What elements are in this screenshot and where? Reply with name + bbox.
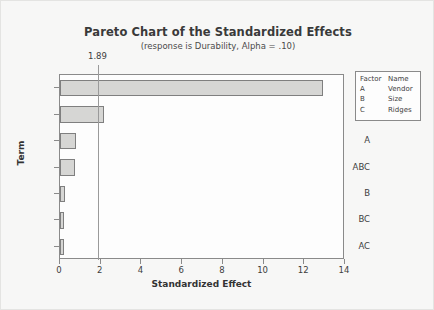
- bar-b: [60, 186, 65, 202]
- y-tick-label-ac: AC: [358, 241, 370, 251]
- x-tick-label-2: 2: [97, 265, 102, 275]
- legend-header-name: Name: [388, 75, 416, 85]
- legend-cell-name: Vendor: [388, 85, 416, 95]
- bar-ac: [60, 239, 64, 255]
- x-tick-label-8: 8: [219, 265, 224, 275]
- legend-cell-factor: A: [360, 85, 388, 95]
- legend-body: AVendorBSizeCRidges: [360, 85, 416, 116]
- legend-cell-factor: C: [360, 106, 388, 116]
- y-tick-label-abc: ABC: [353, 162, 370, 172]
- y-tick-mark: [54, 193, 59, 194]
- y-tick-mark: [54, 219, 59, 220]
- pareto-chart-figure: Pareto Chart of the Standardized Effects…: [0, 0, 434, 310]
- bar-bc: [60, 212, 64, 228]
- bar-a: [60, 133, 76, 149]
- reference-line-label: 1.89: [88, 51, 107, 61]
- x-tick-mark: [100, 259, 101, 264]
- x-tick-mark: [181, 259, 182, 264]
- legend-row: CRidges: [360, 106, 416, 116]
- legend-cell-name: Size: [388, 95, 416, 105]
- y-tick-label-bc: BC: [358, 214, 370, 224]
- y-tick-mark: [54, 167, 59, 168]
- legend-row: BSize: [360, 95, 416, 105]
- y-axis-title: Term: [16, 141, 26, 166]
- legend-table: Factor Name AVendorBSizeCRidges: [360, 75, 416, 116]
- bar-abc: [60, 159, 75, 175]
- x-tick-label-10: 10: [257, 265, 268, 275]
- x-tick-label-6: 6: [178, 265, 183, 275]
- legend-cell-name: Ridges: [388, 106, 416, 116]
- plot-area: [59, 74, 344, 259]
- x-tick-label-12: 12: [298, 265, 309, 275]
- factor-legend: Factor Name AVendorBSizeCRidges: [355, 71, 421, 121]
- x-tick-label-4: 4: [138, 265, 143, 275]
- y-tick-mark: [54, 246, 59, 247]
- y-tick-mark: [54, 114, 59, 115]
- x-tick-mark: [344, 259, 345, 264]
- chart-subtitle: (response is Durability, Alpha = .10): [1, 41, 434, 51]
- y-tick-label-a: A: [364, 135, 370, 145]
- y-tick-mark: [54, 87, 59, 88]
- chart-title: Pareto Chart of the Standardized Effects: [1, 25, 434, 39]
- x-tick-mark: [263, 259, 264, 264]
- x-tick-label-14: 14: [339, 265, 350, 275]
- x-tick-label-0: 0: [56, 265, 61, 275]
- x-tick-mark: [59, 259, 60, 264]
- y-tick-label-b: B: [364, 188, 370, 198]
- legend-row: AVendor: [360, 85, 416, 95]
- legend-header-row: Factor Name: [360, 75, 416, 85]
- reference-line: [98, 65, 99, 260]
- y-tick-mark: [54, 140, 59, 141]
- x-tick-mark: [140, 259, 141, 264]
- legend-cell-factor: B: [360, 95, 388, 105]
- x-tick-mark: [303, 259, 304, 264]
- x-axis-title: Standardized Effect: [59, 279, 344, 289]
- bar-c: [60, 106, 104, 122]
- x-tick-mark: [222, 259, 223, 264]
- legend-header-factor: Factor: [360, 75, 388, 85]
